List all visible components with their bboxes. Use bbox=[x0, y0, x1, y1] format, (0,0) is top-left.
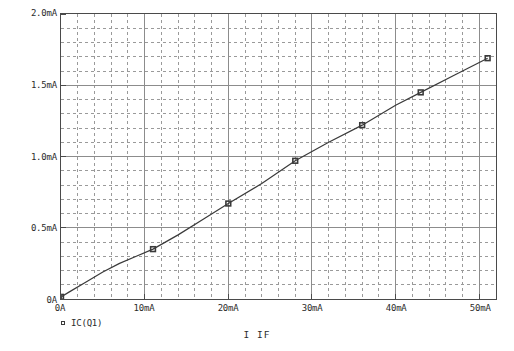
x-tick-label: 40mA bbox=[386, 303, 407, 313]
plot-area bbox=[60, 13, 497, 300]
chart-screenshot: 0A0.5mA1.0mA1.5mA2.0mA 0A10mA20mA30mA40m… bbox=[0, 0, 514, 351]
y-tick-label: 1.0mA bbox=[31, 152, 57, 162]
y-tick-label: 1.5mA bbox=[31, 80, 57, 90]
x-tick-label: 30mA bbox=[302, 303, 323, 313]
x-axis-title: I IF bbox=[0, 329, 514, 340]
x-tick-label: 10mA bbox=[134, 303, 155, 313]
square-marker-icon bbox=[61, 321, 65, 325]
legend-series-label: IC(Q1) bbox=[71, 318, 102, 328]
legend[interactable]: IC(Q1) bbox=[61, 318, 102, 328]
y-tick-label: 0.5mA bbox=[31, 223, 57, 233]
x-tick-label: 20mA bbox=[218, 303, 239, 313]
data-layer bbox=[61, 14, 496, 299]
y-axis-labels: 0A0.5mA1.0mA1.5mA2.0mA bbox=[0, 0, 57, 351]
x-tick-label: 0A bbox=[55, 303, 65, 313]
x-tick-label: 50mA bbox=[470, 303, 491, 313]
y-tick-label: 2.0mA bbox=[31, 8, 57, 18]
